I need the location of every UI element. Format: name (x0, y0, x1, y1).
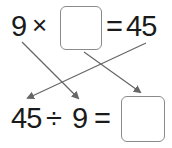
arrow-9-to-9 (22, 42, 78, 98)
top-equals-sign: = (106, 12, 122, 41)
bottom-divisor-9: 9 (72, 104, 87, 133)
times-sign: × (32, 12, 46, 38)
top-operand-9: 9 (11, 12, 26, 41)
bottom-dividend-45: 45 (11, 104, 41, 133)
top-answer-box[interactable] (60, 6, 102, 50)
division-sign: ÷ (46, 104, 61, 133)
arrow-box-to-box (84, 52, 140, 92)
top-result-45: 45 (126, 12, 156, 41)
bottom-answer-box[interactable] (121, 96, 165, 142)
bottom-equals-sign: = (94, 104, 110, 133)
arrow-45-to-45 (28, 43, 146, 98)
